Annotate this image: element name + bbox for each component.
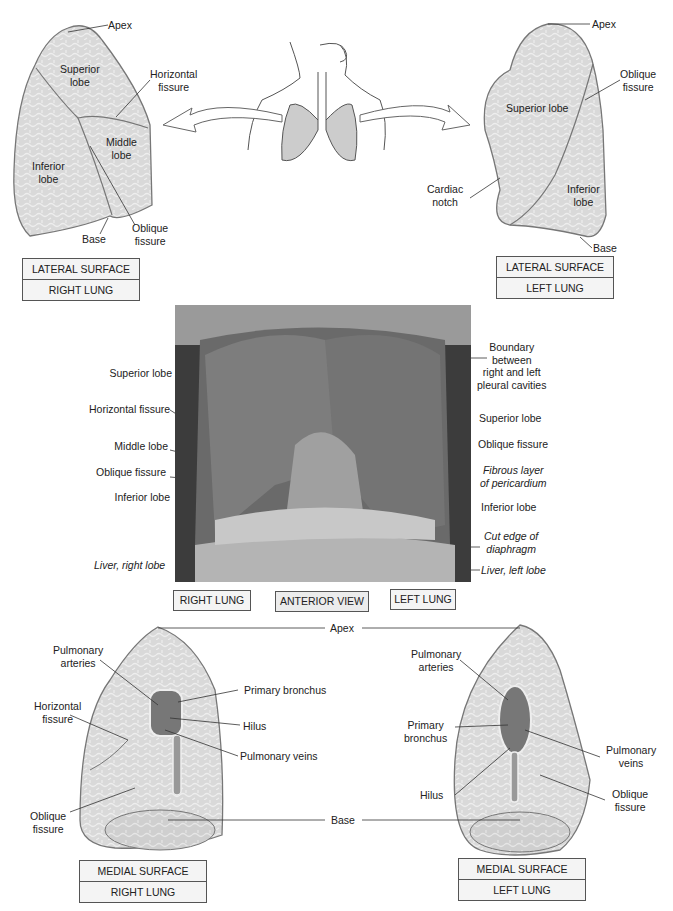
caption-left-lateral: LATERAL SURFACE LEFT LUNG [496,256,614,299]
caption-right-lateral: LATERAL SURFACE RIGHT LUNG [22,258,140,301]
caption-line-surface: LATERAL SURFACE [497,257,613,277]
label-base-right-lateral: Base [82,233,106,246]
caption-line-surface: MEDIAL SURFACE [80,861,206,881]
caption-line-surface: MEDIAL SURFACE [459,859,585,879]
label-liver-left-lobe: Liver, left lobe [481,564,546,577]
label-superior-lobe-photo-right: Superior lobe [90,367,172,380]
label-pulmonary-arteries-left: Pulmonary arteries [411,648,461,673]
label-pulmonary-veins-right: Pulmonary veins [240,750,318,763]
respiratory-system-figure [248,42,385,161]
label-cut-edge-diaphragm: Cut edge of diaphragm [484,530,538,555]
caption-right-medial: MEDIAL SURFACE RIGHT LUNG [79,860,207,903]
label-superior-lobe-left-lateral: Superior lobe [506,102,568,115]
caption-line-lung: RIGHT LUNG [80,881,206,902]
label-inferior-lobe-photo-right: Inferior lobe [90,491,170,504]
label-oblique-fissure-left-lateral: Oblique fissure [620,68,656,93]
caption-left-medial: MEDIAL SURFACE LEFT LUNG [458,858,586,901]
label-apex-medial: Apex [330,622,354,635]
label-liver-right-lobe: Liver, right lobe [94,559,165,572]
arrow-to-left-lung [360,105,470,130]
label-base-medial: Base [331,814,355,827]
caption-line-lung: RIGHT LUNG [23,279,139,300]
label-oblique-fissure-medial-left: Oblique fissure [612,788,648,813]
label-pulmonary-arteries-right: Pulmonary arteries [53,644,103,669]
label-apex-right-lateral: Apex [108,19,132,32]
label-horizontal-fissure-photo: Horizontal fissure [89,403,170,416]
arrow-to-right-lung [163,108,282,133]
tag-anterior-view: ANTERIOR VIEW [275,591,369,612]
label-middle-lobe-right-lateral: Middle lobe [106,136,137,161]
label-hilus-left: Hilus [420,789,443,802]
label-pleural-boundary: Boundary between right and left pleural … [477,341,546,391]
label-cardiac-notch: Cardiac notch [427,183,463,208]
label-pulmonary-veins-left: Pulmonary veins [606,744,656,769]
label-apex-left-lateral: Apex [592,18,616,31]
label-middle-lobe-photo: Middle lobe [90,440,168,453]
label-inferior-lobe-left-lateral: Inferior lobe [567,183,600,208]
left-lung-medial-illustration [454,625,590,855]
right-lung-lateral-illustration [14,26,152,236]
label-superior-lobe-right-lateral: Superior lobe [60,63,100,88]
label-horizontal-fissure-medial: Horizontal fissure [34,700,81,725]
tag-left-lung: LEFT LUNG [390,589,456,610]
label-primary-bronchus-right: Primary bronchus [244,684,326,697]
tag-right-lung: RIGHT LUNG [173,590,251,611]
label-hilus-right: Hilus [243,720,266,733]
label-oblique-fissure-photo-right: Oblique fissure [96,466,166,479]
anterior-view-photo [175,305,471,582]
caption-line-surface: LATERAL SURFACE [23,259,139,279]
label-horizontal-fissure-right-lateral: Horizontal fissure [150,68,197,93]
label-oblique-fissure-photo-left: Oblique fissure [478,438,548,451]
label-inferior-lobe-right-lateral: Inferior lobe [32,160,65,185]
caption-line-lung: LEFT LUNG [497,277,613,298]
label-inferior-lobe-photo-left: Inferior lobe [481,501,536,514]
label-oblique-fissure-medial-right: Oblique fissure [30,810,66,835]
label-primary-bronchus-left: Primary bronchus [404,719,447,744]
label-oblique-fissure-right-lateral: Oblique fissure [132,222,168,247]
label-superior-lobe-photo-left: Superior lobe [479,412,541,425]
label-base-left-lateral: Base [593,242,617,255]
caption-line-lung: LEFT LUNG [459,879,585,900]
label-fibrous-pericardium: Fibrous layer of pericardium [480,464,547,489]
